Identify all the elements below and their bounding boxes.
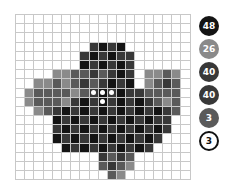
grid-cell[interactable] (53, 89, 62, 98)
grid-cell[interactable] (25, 107, 34, 116)
grid-cell[interactable] (117, 144, 126, 153)
grid-cell[interactable] (181, 70, 190, 79)
grid-cell[interactable] (62, 171, 71, 180)
grid-cell[interactable] (90, 61, 99, 70)
grid-cell[interactable] (135, 89, 144, 98)
grid-cell[interactable] (154, 61, 163, 70)
grid-cell[interactable] (62, 89, 71, 98)
grid-cell[interactable] (34, 89, 43, 98)
grid-cell[interactable] (99, 116, 108, 125)
grid-cell[interactable] (135, 116, 144, 125)
grid-cell[interactable] (126, 134, 135, 143)
grid-cell[interactable] (154, 89, 163, 98)
grid-cell[interactable] (117, 116, 126, 125)
grid-cell[interactable] (34, 70, 43, 79)
grid-cell[interactable] (16, 125, 25, 134)
grid-cell[interactable] (172, 134, 181, 143)
grid-cell[interactable] (80, 171, 89, 180)
grid-cell[interactable] (16, 79, 25, 88)
grid-cell[interactable] (71, 98, 80, 107)
grid-cell[interactable] (80, 52, 89, 61)
grid-cell[interactable] (181, 171, 190, 180)
grid-cell[interactable] (44, 144, 53, 153)
grid-cell[interactable] (80, 70, 89, 79)
grid-cell[interactable] (44, 15, 53, 24)
grid-cell[interactable] (90, 153, 99, 162)
grid-cell[interactable] (145, 153, 154, 162)
grid-cell[interactable] (126, 24, 135, 33)
grid-cell[interactable] (80, 125, 89, 134)
grid-cell[interactable] (117, 162, 126, 171)
grid-cell[interactable] (80, 89, 89, 98)
grid-cell[interactable] (181, 125, 190, 134)
grid-cell[interactable] (145, 70, 154, 79)
grid-cell[interactable] (34, 116, 43, 125)
grid-cell[interactable] (80, 134, 89, 143)
grid-cell[interactable] (117, 24, 126, 33)
grid-cell[interactable] (53, 79, 62, 88)
grid-cell[interactable] (126, 116, 135, 125)
grid-cell[interactable] (44, 171, 53, 180)
grid-cell[interactable] (62, 61, 71, 70)
grid-cell[interactable] (90, 107, 99, 116)
grid-cell[interactable] (145, 89, 154, 98)
grid-cell[interactable] (126, 98, 135, 107)
grid-cell[interactable] (154, 107, 163, 116)
grid-cell[interactable] (145, 33, 154, 42)
grid-cell[interactable] (16, 43, 25, 52)
grid-cell[interactable] (62, 43, 71, 52)
grid-cell[interactable] (71, 70, 80, 79)
grid-cell[interactable] (108, 116, 117, 125)
grid-cell[interactable] (71, 162, 80, 171)
grid-cell[interactable] (99, 107, 108, 116)
grid-cell[interactable] (16, 153, 25, 162)
grid-cell[interactable] (108, 125, 117, 134)
grid-cell[interactable] (71, 153, 80, 162)
grid-cell[interactable] (126, 70, 135, 79)
grid-cell[interactable] (16, 70, 25, 79)
grid-cell[interactable] (34, 43, 43, 52)
grid-cell[interactable] (16, 107, 25, 116)
grid-cell[interactable] (80, 61, 89, 70)
grid-cell[interactable] (71, 134, 80, 143)
grid-cell[interactable] (34, 15, 43, 24)
grid-cell[interactable] (44, 125, 53, 134)
grid-cell[interactable] (80, 144, 89, 153)
grid-cell[interactable] (44, 52, 53, 61)
grid-cell[interactable] (154, 33, 163, 42)
grid-cell[interactable] (135, 24, 144, 33)
grid-cell[interactable] (90, 125, 99, 134)
grid-cell[interactable] (145, 116, 154, 125)
grid-cell[interactable] (80, 153, 89, 162)
grid-cell[interactable] (145, 79, 154, 88)
grid-cell[interactable] (62, 98, 71, 107)
grid-cell[interactable] (62, 107, 71, 116)
grid-cell[interactable] (53, 98, 62, 107)
grid-cell[interactable] (34, 144, 43, 153)
grid-cell[interactable] (117, 98, 126, 107)
grid-cell[interactable] (44, 24, 53, 33)
grid-cell[interactable] (71, 43, 80, 52)
grid-cell[interactable] (117, 125, 126, 134)
grid-cell[interactable] (99, 89, 108, 98)
grid-cell[interactable] (126, 153, 135, 162)
grid-cell[interactable] (53, 116, 62, 125)
grid-cell[interactable] (71, 171, 80, 180)
grid-cell[interactable] (62, 52, 71, 61)
grid-cell[interactable] (163, 89, 172, 98)
grid-cell[interactable] (135, 15, 144, 24)
grid-cell[interactable] (16, 98, 25, 107)
grid-cell[interactable] (34, 79, 43, 88)
grid-cell[interactable] (135, 61, 144, 70)
grid-cell[interactable] (181, 24, 190, 33)
grid-cell[interactable] (25, 70, 34, 79)
grid-cell[interactable] (80, 116, 89, 125)
grid-cell[interactable] (181, 98, 190, 107)
grid-cell[interactable] (99, 125, 108, 134)
grid-cell[interactable] (44, 107, 53, 116)
grid-cell[interactable] (71, 116, 80, 125)
grid-cell[interactable] (16, 134, 25, 143)
grid-cell[interactable] (16, 52, 25, 61)
grid-cell[interactable] (71, 89, 80, 98)
grid-cell[interactable] (53, 15, 62, 24)
